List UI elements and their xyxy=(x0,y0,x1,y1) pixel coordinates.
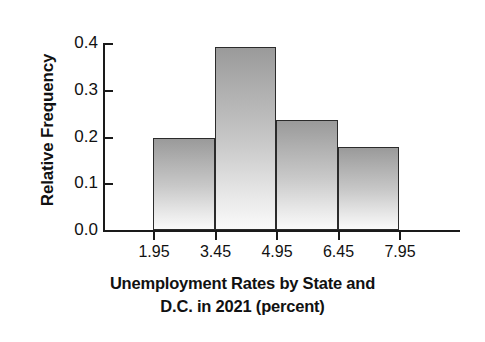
x-tick-label-4: 7.95 xyxy=(365,243,435,261)
x-axis-title-line-2: D.C. in 2021 (percent) xyxy=(0,295,485,318)
x-tick-label-0: 1.95 xyxy=(119,243,189,261)
y-tick-label-2: 0.2 xyxy=(58,127,98,147)
histogram-bar xyxy=(215,47,277,230)
x-axis-title: Unemployment Rates by State and D.C. in … xyxy=(0,272,485,318)
x-axis-line xyxy=(103,230,460,232)
plot-area: 0.00.10.20.30.4 1.953.454.956.457.95 xyxy=(103,43,460,232)
y-axis-title: Relative Frequency xyxy=(38,25,58,235)
histogram-figure: Relative Frequency 0.00.10.20.30.4 1.953… xyxy=(0,0,485,342)
y-tick-4 xyxy=(105,43,113,45)
y-tick-0 xyxy=(105,230,113,232)
y-tick-3 xyxy=(105,90,113,92)
x-tick-label-3: 6.45 xyxy=(304,243,374,261)
histogram-bar xyxy=(153,138,215,230)
x-tick-1 xyxy=(215,232,217,240)
x-tick-label-1: 3.45 xyxy=(181,243,251,261)
x-axis-title-line-1: Unemployment Rates by State and xyxy=(0,272,485,295)
x-tick-label-2: 4.95 xyxy=(242,243,312,261)
y-tick-label-0: 0.0 xyxy=(58,220,98,240)
x-tick-2 xyxy=(276,232,278,240)
x-tick-0 xyxy=(153,232,155,240)
y-tick-label-4: 0.4 xyxy=(58,33,98,53)
histogram-bar xyxy=(338,147,400,230)
x-tick-4 xyxy=(399,232,401,240)
y-tick-2 xyxy=(105,137,113,139)
histogram-bar xyxy=(276,120,338,230)
y-tick-label-1: 0.1 xyxy=(58,173,98,193)
x-tick-3 xyxy=(338,232,340,240)
y-tick-1 xyxy=(105,183,113,185)
y-tick-label-3: 0.3 xyxy=(58,80,98,100)
